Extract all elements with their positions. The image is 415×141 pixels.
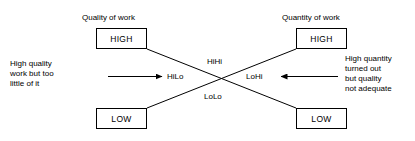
box-quality-high[interactable]: HIGH	[96, 28, 147, 49]
note-right-high-quantity: High quantity turned out but quality not…	[345, 54, 415, 94]
quadrant-label-lolo: LoLo	[204, 92, 222, 101]
box-quality-low[interactable]: LOW	[96, 108, 147, 129]
box-quantity-high[interactable]: HIGH	[296, 28, 347, 49]
note-left-high-quality: High quality work but too little of it	[10, 59, 90, 89]
quadrant-label-lohi: LoHi	[246, 72, 262, 81]
quadrant-label-hihi: HiHi	[207, 57, 222, 66]
column-title-quality: Quality of work	[82, 13, 135, 22]
column-title-quantity: Quantity of work	[282, 13, 340, 22]
quadrant-label-hilo: HiLo	[167, 72, 183, 81]
diagram-canvas: Quality of work Quantity of work HIGH HI…	[0, 0, 415, 141]
box-quantity-low[interactable]: LOW	[296, 108, 347, 129]
